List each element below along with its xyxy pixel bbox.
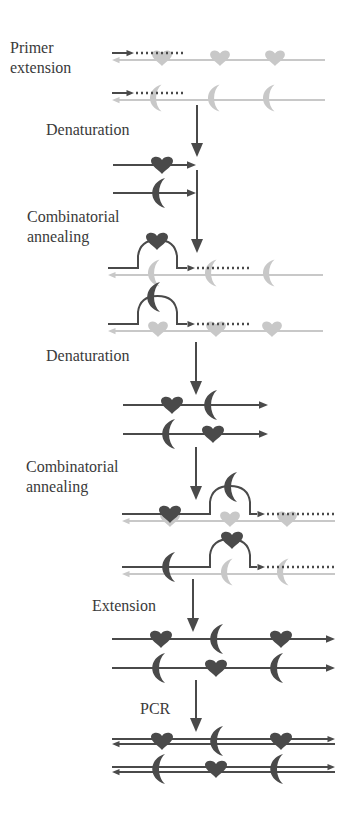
heart-icon [220, 512, 240, 528]
heart-icon [210, 51, 230, 67]
heart-icon [205, 660, 227, 677]
combinatorial-pcr-diagram: Primer extension Denaturation Combinator… [0, 0, 355, 818]
crescent-moon-icon [152, 754, 165, 784]
looped-primer-strand [122, 486, 257, 514]
arrow-down-icon [187, 618, 199, 632]
crescent-moon-icon [263, 85, 274, 112]
arrow-down-icon [190, 718, 202, 732]
looped-primer-strand [108, 296, 187, 324]
heart-icon [221, 532, 243, 549]
arrowhead-right-icon [259, 430, 268, 438]
heart-icon [161, 397, 183, 414]
heart-icon [151, 733, 173, 750]
heart-icon [205, 761, 227, 778]
arrowhead-right-icon [127, 90, 135, 96]
arrow-down-icon [191, 143, 203, 157]
arrow-down-icon [190, 486, 202, 500]
looped-primer-strand [108, 240, 187, 268]
arrowhead-left-icon [112, 741, 120, 747]
heart-icon [146, 233, 168, 250]
heart-icon [202, 426, 224, 443]
arrowhead-right-icon [127, 50, 135, 56]
arrowhead-left-icon [108, 328, 116, 334]
arrowhead-left-icon [112, 57, 120, 63]
arrowhead-right-icon [328, 736, 336, 742]
arrowhead-right-icon [188, 321, 196, 327]
arrowhead-left-icon [122, 571, 130, 577]
arrow-down-icon [191, 239, 203, 253]
crescent-moon-icon [210, 726, 223, 756]
heart-icon [148, 322, 168, 338]
crescent-moon-icon [148, 260, 159, 287]
strand-diagram [0, 0, 355, 818]
arrowhead-right-icon [187, 161, 196, 169]
heart-icon [270, 631, 292, 648]
crescent-moon-icon [205, 260, 216, 287]
crescent-moon-icon [221, 559, 232, 586]
heart-icon [150, 631, 172, 648]
arrow-down-icon [190, 381, 202, 395]
crescent-moon-icon [263, 260, 274, 287]
arrowhead-left-icon [108, 272, 116, 278]
arrowhead-right-icon [187, 189, 196, 197]
arrowhead-right-icon [259, 401, 268, 409]
arrowhead-right-icon [328, 764, 336, 770]
heart-icon [262, 322, 282, 338]
arrowhead-left-icon [122, 518, 130, 524]
arrowhead-right-icon [326, 664, 335, 672]
arrowhead-right-icon [258, 564, 266, 570]
arrowhead-left-icon [112, 97, 120, 103]
crescent-moon-icon [208, 85, 219, 112]
arrowhead-right-icon [326, 635, 335, 643]
arrowhead-right-icon [188, 265, 196, 271]
arrowhead-left-icon [112, 769, 120, 775]
crescent-moon-icon [277, 559, 288, 586]
arrowhead-right-icon [258, 511, 266, 517]
heart-icon [270, 733, 292, 750]
crescent-moon-icon [270, 754, 283, 784]
heart-icon [265, 51, 285, 67]
crescent-moon-icon [150, 85, 161, 112]
heart-icon [151, 157, 173, 174]
